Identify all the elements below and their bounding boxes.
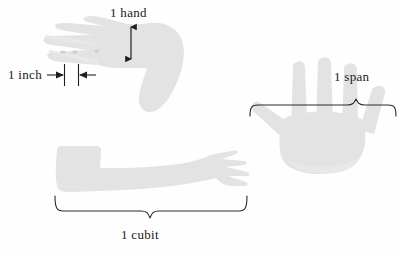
cubit-measure-brace [55,196,247,218]
measurement-units-figure: 1 hand 1 inch 1 span 1 cubit [0,0,401,257]
label-span: 1 span [334,70,369,83]
label-inch: 1 inch [8,68,42,81]
annotation-layer [0,0,401,257]
inch-measure-ticks [47,64,96,86]
label-cubit: 1 cubit [121,228,159,241]
label-hand: 1 hand [110,6,147,19]
span-measure-brace [250,99,396,116]
